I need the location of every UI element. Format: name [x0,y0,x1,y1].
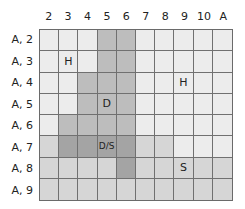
grid-cell [59,30,78,51]
grid-cell [59,158,78,179]
grid-cell [98,73,117,94]
grid-cell [59,94,78,115]
grid-cell [40,158,59,179]
grid-cell [40,30,59,51]
grid-cell [174,51,193,72]
grid-cell [117,51,136,72]
grid-cell [213,94,232,115]
grid-cell: D [98,94,117,115]
grid-cell [98,51,117,72]
grid-cell [155,94,174,115]
grid-cell [59,136,78,157]
strategy-grid: HHDD/SS [39,29,233,201]
grid-cell [136,73,155,94]
grid-cell [78,136,97,157]
column-header: 5 [97,8,116,26]
grid-cell [117,30,136,51]
grid-cell [40,94,59,115]
grid-cell [136,94,155,115]
grid-cell [98,179,117,200]
grid-cell [117,73,136,94]
grid-cell [117,179,136,200]
grid-cell [136,158,155,179]
grid-cell [78,179,97,200]
row-header: A, 8 [0,158,36,180]
grid-cell [59,179,78,200]
grid-cell [155,115,174,136]
column-header: 9 [175,8,194,26]
grid-cell [78,158,97,179]
row-header: A, 6 [0,115,36,137]
grid-cell [213,158,232,179]
grid-cell [136,136,155,157]
grid-cell [117,136,136,157]
grid-cell [194,51,213,72]
column-header: 4 [78,8,97,26]
cell-label: H [179,76,187,89]
grid-cell [40,179,59,200]
cell-label: D [102,97,110,110]
grid-cell [194,136,213,157]
grid-cell [117,115,136,136]
cell-label: H [64,55,72,68]
grid-cell: H [59,51,78,72]
grid-cell [136,30,155,51]
grid-cell [213,73,232,94]
grid-cell [136,51,155,72]
grid-cell [155,136,174,157]
grid-cell [213,30,232,51]
column-header: 2 [39,8,58,26]
grid-cell [213,51,232,72]
grid-cell: D/S [98,136,117,157]
grid-cell [117,94,136,115]
grid-cell [155,51,174,72]
grid-cell [78,30,97,51]
column-header: 7 [136,8,155,26]
grid-cell [40,51,59,72]
grid-cell [40,136,59,157]
column-headers: 2345678910A [39,8,233,26]
row-header: A, 3 [0,51,36,73]
grid-cell [40,115,59,136]
column-header: 6 [117,8,136,26]
grid-cell [78,115,97,136]
grid-cell [98,30,117,51]
row-header: A, 5 [0,94,36,116]
grid-cell: S [174,158,193,179]
grid-cell [155,179,174,200]
grid-cell [194,115,213,136]
column-header: 3 [58,8,77,26]
column-header: 8 [155,8,174,26]
grid-cell [117,158,136,179]
row-header: A, 7 [0,137,36,159]
grid-cell [174,115,193,136]
grid-cell [194,30,213,51]
grid-cell [155,73,174,94]
grid-cell [174,136,193,157]
row-header: A, 4 [0,72,36,94]
grid-cell [174,30,193,51]
grid-cell [40,73,59,94]
grid-cell [174,179,193,200]
grid-cell [194,179,213,200]
grid-cell [213,136,232,157]
row-headers: A, 2A, 3A, 4A, 5A, 6A, 7A, 8A, 9 [0,29,36,201]
row-header: A, 2 [0,29,36,51]
grid-cell [194,94,213,115]
grid-cell [136,115,155,136]
grid-cell [213,115,232,136]
grid-cell [98,115,117,136]
column-header: A [214,8,233,26]
grid-cell [213,179,232,200]
grid-cell [78,73,97,94]
grid-cell [155,158,174,179]
row-header: A, 9 [0,180,36,202]
grid-cell [174,94,193,115]
cell-label: D/S [99,141,115,151]
column-header: 10 [194,8,213,26]
grid-cell [78,51,97,72]
grid-cell [136,179,155,200]
grid-cell [98,158,117,179]
grid-cell [59,73,78,94]
grid-cell [78,94,97,115]
